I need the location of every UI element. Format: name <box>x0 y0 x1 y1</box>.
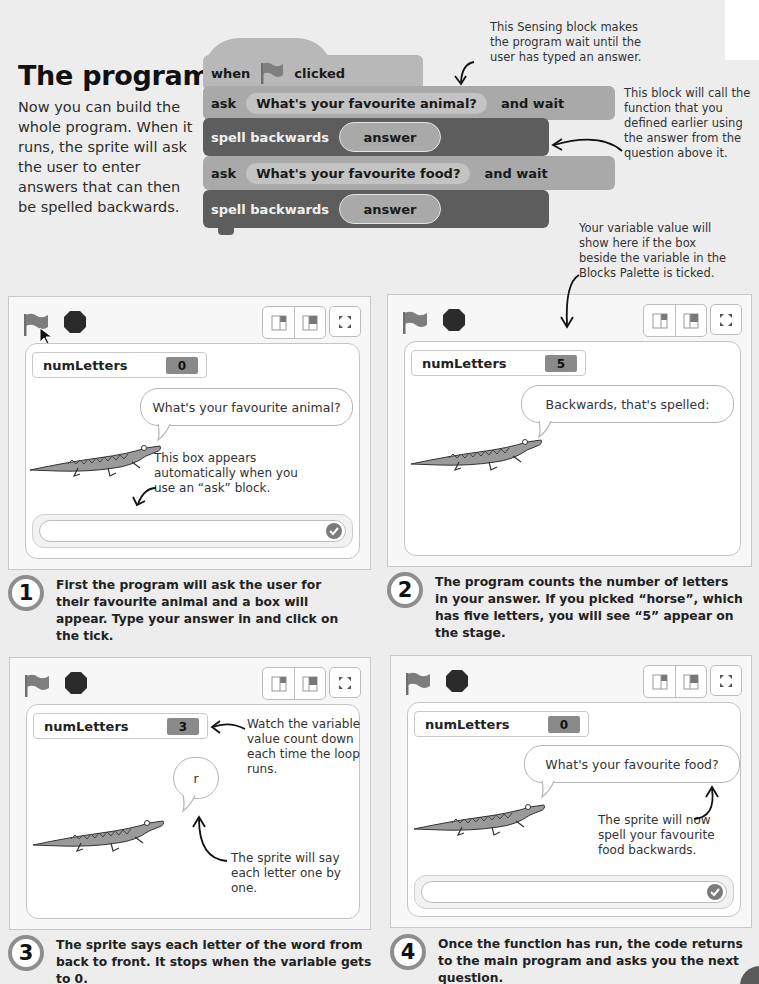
arrow-icon <box>132 484 160 510</box>
step-caption: First the program will ask the user for … <box>56 577 356 645</box>
ask-animal-block[interactable]: ask What's your favourite animal? and wa… <box>203 86 615 120</box>
ask-answer-box <box>414 875 734 909</box>
stage-panel-3: numLetters 3 r Watch the variable value … <box>9 657 371 930</box>
small-stage-button[interactable] <box>644 305 675 336</box>
fullscreen-button[interactable] <box>329 306 361 337</box>
normal-stage-button[interactable] <box>294 307 325 338</box>
answer-input[interactable] <box>39 520 346 542</box>
variable-name: numLetters <box>43 358 128 373</box>
speech-bubble: Backwards, that's spelled: <box>521 385 734 423</box>
ask-question-input[interactable]: What's your favourite food? <box>246 163 470 184</box>
bubble-tail <box>540 781 560 799</box>
stage-mode-controls <box>643 304 742 337</box>
arrow-icon <box>191 815 231 865</box>
clicked-label: clicked <box>294 66 345 81</box>
stop-button[interactable] <box>445 669 469 693</box>
variable-name: numLetters <box>425 717 510 732</box>
stop-button[interactable] <box>63 310 87 334</box>
expand-icon <box>718 673 734 689</box>
expand-icon <box>718 312 734 328</box>
fullscreen-button[interactable] <box>710 304 742 335</box>
spell-backwards-label: spell backwards <box>211 202 329 217</box>
stage[interactable]: numLetters 3 r Watch the variable value … <box>26 704 360 919</box>
page-title: The program <box>18 60 210 91</box>
step-number-badge: 1 <box>8 575 44 611</box>
variable-monitor: numLetters 0 <box>32 352 207 378</box>
stop-button[interactable] <box>64 671 88 695</box>
normal-stage-button[interactable] <box>675 305 706 336</box>
ask-keyword: ask <box>211 166 236 181</box>
step-caption: The program counts the number of letters… <box>435 574 745 642</box>
stage-mode-controls <box>262 667 361 700</box>
stage-panel-4: numLetters 0 What's your favourite food?… <box>390 655 752 928</box>
and-wait-label: and wait <box>501 96 564 111</box>
ask-box-annotation: This box appears automatically when you … <box>154 451 304 496</box>
arrow-icon <box>440 56 480 88</box>
bubble-tail <box>181 795 201 813</box>
crocodile-sprite <box>31 815 171 855</box>
answer-reporter[interactable]: answer <box>339 122 441 152</box>
step-caption: The sprite says each letter of the word … <box>56 937 376 984</box>
expand-icon <box>337 314 353 330</box>
variable-monitor: numLetters 0 <box>414 711 589 737</box>
normal-stage-button[interactable] <box>294 668 325 699</box>
fullscreen-button[interactable] <box>710 665 742 696</box>
spell-backwards-block-1[interactable]: spell backwards answer <box>203 118 549 156</box>
function-annotation: This block will call the function that y… <box>624 86 759 161</box>
variable-monitor: numLetters 5 <box>411 350 586 376</box>
stage-panel-2: numLetters 5 Backwards, that's spelled: <box>387 294 752 567</box>
variable-value: 0 <box>166 357 198 374</box>
step-number-badge: 4 <box>390 934 426 970</box>
check-icon[interactable] <box>707 884 723 900</box>
stage-mode-controls <box>262 306 361 339</box>
spell-backwards-block-2[interactable]: spell backwards answer <box>203 190 549 228</box>
variable-annotation: Your variable value will show here if th… <box>579 221 729 281</box>
green-flag-button[interactable] <box>402 309 428 335</box>
intro-paragraph: Now you can build the whole program. Whe… <box>18 97 198 217</box>
ask-question-input[interactable]: What's your favourite animal? <box>246 93 487 114</box>
normal-stage-button[interactable] <box>675 666 706 697</box>
green-flag-button[interactable] <box>24 672 50 698</box>
stage[interactable]: numLetters 5 Backwards, that's spelled: <box>404 341 741 556</box>
small-stage-button[interactable] <box>644 666 675 697</box>
say-letter-annotation: The sprite will say each letter one by o… <box>231 851 341 896</box>
arrow-icon <box>555 273 585 333</box>
when-label: when <box>211 66 250 81</box>
ask-keyword: ask <box>211 96 236 111</box>
ask-answer-box <box>32 514 353 548</box>
step-number-badge: 3 <box>8 935 44 971</box>
green-flag-icon <box>260 62 284 84</box>
speech-bubble: r <box>173 757 219 799</box>
stage-panel-1: numLetters 0 What's your favourite anima… <box>8 296 371 570</box>
speech-bubble: What's your favourite animal? <box>140 388 353 426</box>
answer-reporter[interactable]: answer <box>339 194 441 224</box>
crocodile-sprite <box>412 799 552 839</box>
stage-mode-controls <box>643 665 742 698</box>
speech-bubble: What's your favourite food? <box>524 745 740 783</box>
and-wait-label: and wait <box>484 166 547 181</box>
variable-value: 3 <box>167 718 199 735</box>
stage[interactable]: numLetters 0 What's your favourite anima… <box>25 343 360 559</box>
sensing-annotation: This Sensing block makes the program wai… <box>490 20 650 65</box>
variable-name: numLetters <box>44 719 129 734</box>
small-stage-button[interactable] <box>263 307 294 338</box>
spell-backwards-label: spell backwards <box>211 130 329 145</box>
variable-name: numLetters <box>422 356 507 371</box>
page-corner-tab <box>725 0 759 60</box>
count-down-annotation: Watch the variable value count down each… <box>247 717 362 777</box>
variable-value: 0 <box>548 716 580 733</box>
fullscreen-button[interactable] <box>329 667 361 698</box>
stop-button[interactable] <box>442 308 466 332</box>
arrow-icon <box>550 132 630 162</box>
variable-value: 5 <box>545 355 577 372</box>
step-caption: Once the function has run, the code retu… <box>438 936 748 984</box>
stage[interactable]: numLetters 0 What's your favourite food?… <box>407 702 741 917</box>
check-icon[interactable] <box>326 523 342 539</box>
crocodile-sprite <box>28 440 168 480</box>
crocodile-sprite <box>409 434 549 474</box>
answer-input[interactable] <box>421 881 727 903</box>
expand-icon <box>337 675 353 691</box>
small-stage-button[interactable] <box>263 668 294 699</box>
green-flag-button[interactable] <box>405 670 431 696</box>
arrow-icon <box>692 785 722 825</box>
